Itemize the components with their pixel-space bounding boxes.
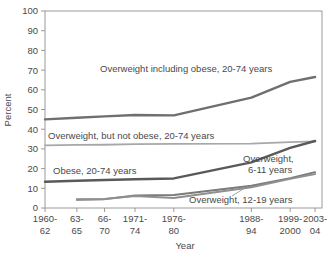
ann-obese: Obese, 20-74 years (53, 165, 137, 176)
y-tick-label: 100 (22, 5, 38, 16)
y-tick-label: 50 (27, 104, 38, 115)
x-axis-title: Year (175, 240, 194, 251)
y-tick-label: 10 (27, 183, 38, 194)
x-axis-ticks-group: 1960-6263-6566-701971-741976-801988-9419… (33, 208, 327, 236)
x-tick-label: 1976-80 (162, 213, 186, 236)
y-tick-label: 0 (33, 202, 38, 213)
ann-overweight-including-obese: Overweight including obese, 20-74 years (100, 63, 272, 74)
y-tick-label: 30 (27, 143, 38, 154)
chart-container: 0102030405060708090100 1960-6263-6566-70… (0, 0, 330, 254)
series-line-0 (45, 77, 315, 119)
line-chart: 0102030405060708090100 1960-6263-6566-70… (0, 0, 330, 254)
y-tick-label: 70 (27, 65, 38, 76)
x-tick-label: 1999-2000 (278, 213, 302, 236)
x-tick-label: 1988-94 (239, 213, 263, 236)
y-tick-label: 20 (27, 163, 38, 174)
y-axis-ticks-group: 0102030405060708090100 (22, 5, 45, 213)
y-tick-label: 40 (27, 124, 38, 135)
ann-overweight-not-obese: Overweight, but not obese, 20-74 years (48, 130, 215, 141)
y-tick-label: 80 (27, 45, 38, 56)
y-tick-label: 60 (27, 84, 38, 95)
x-tick-label: 1971-74 (123, 213, 147, 236)
x-tick-label: 2003-04 (303, 213, 327, 236)
y-axis-title: Percent (2, 93, 13, 126)
x-tick-label: 1960-62 (33, 213, 57, 236)
ann-overweight-12-19: Overweight, 12-19 years (189, 194, 293, 205)
x-tick-label: 63-65 (70, 213, 84, 236)
ann-overweight-6-11-line2: 6-11 years (248, 164, 292, 175)
plot-frame-group (45, 11, 322, 208)
series-line-1 (45, 141, 315, 145)
ann-overweight-6-11-line1: Overweight, (243, 153, 294, 164)
x-tick-label: 66-70 (98, 213, 112, 236)
y-tick-label: 90 (27, 25, 38, 36)
